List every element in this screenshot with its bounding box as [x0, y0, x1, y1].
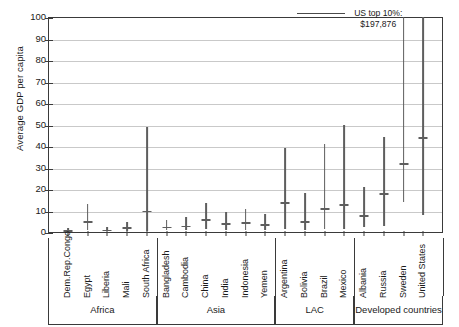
x-tick-mark [285, 231, 286, 236]
x-tick-mark [403, 231, 404, 236]
mean-marker [399, 163, 408, 165]
range-bar [87, 204, 89, 230]
x-tick-mark [265, 231, 266, 236]
category-label: South Africa [142, 249, 151, 298]
group-separator [157, 238, 158, 296]
x-tick-mark [146, 231, 147, 236]
group-band: Asia [157, 296, 276, 324]
annotation-line-1: US top 10%: [347, 8, 409, 19]
group-label: LAC [276, 304, 353, 315]
x-tick-mark [423, 231, 424, 236]
annotation-us-top-decile: US top 10%: $197,876 [347, 8, 409, 29]
range-bar [225, 212, 227, 230]
range-bar [205, 203, 207, 229]
group-band: LAC [275, 296, 354, 324]
category-label: Liberia [102, 271, 111, 298]
x-tick-mark [225, 231, 226, 236]
group-separator [443, 238, 444, 296]
group-label: Africa [49, 304, 156, 315]
category-label: Russia [379, 270, 388, 298]
data-series-layer [48, 17, 443, 232]
x-tick-mark [87, 231, 88, 236]
x-tick-mark [344, 231, 345, 236]
group-separator [275, 238, 276, 296]
x-tick-mark [206, 231, 207, 236]
mean-marker [142, 211, 151, 213]
range-bar [324, 144, 326, 229]
group-band: Africa [48, 296, 157, 324]
mean-marker [123, 227, 132, 229]
y-tick-label: 0 [20, 227, 46, 237]
category-label: Cambodia [181, 257, 190, 298]
range-bar [403, 17, 405, 202]
y-tick-label: 30 [20, 163, 46, 173]
x-tick-mark [324, 231, 325, 236]
group-label: Developed countries [355, 304, 442, 315]
range-bar [343, 125, 345, 229]
category-label: Argentina [280, 259, 289, 298]
category-label: Egypt [83, 275, 92, 298]
y-tick-label: 50 [20, 120, 46, 130]
annotation-leader-line [297, 13, 345, 14]
x-tick-mark [364, 231, 365, 236]
mean-marker [182, 226, 191, 228]
y-tick-mark [45, 233, 53, 234]
range-bar [264, 214, 266, 231]
x-tick-mark [186, 231, 187, 236]
y-tick-label: 80 [20, 55, 46, 65]
mean-marker [83, 221, 92, 223]
range-bar [284, 148, 286, 229]
mean-marker [241, 222, 250, 224]
range-bar [185, 217, 187, 230]
mean-marker [379, 193, 388, 195]
y-tick-label: 20 [20, 184, 46, 194]
category-label: Mexico [339, 269, 348, 298]
category-label: United States [418, 244, 427, 298]
category-label: Bangladesh [162, 250, 171, 298]
mean-marker [320, 208, 329, 210]
category-labels: Dem.Rep.CongoEgyptLiberiaMaliSouth Afric… [0, 238, 459, 298]
category-label: Indonesia [241, 259, 250, 298]
x-tick-mark [107, 231, 108, 236]
category-label: Sweden [399, 265, 408, 298]
category-label: Brazil [320, 275, 329, 298]
mean-marker [202, 219, 211, 221]
mean-marker [162, 227, 171, 229]
range-bar [146, 127, 148, 231]
x-tick-mark [166, 231, 167, 236]
range-bar [383, 137, 385, 225]
y-tick-label: 70 [20, 77, 46, 87]
x-tick-mark [127, 231, 128, 236]
range-bar [363, 187, 365, 227]
mean-marker [340, 204, 349, 206]
category-label: Bolivia [300, 271, 309, 298]
category-label: Dem.Rep.Congo [63, 231, 72, 298]
category-label: Yemen [260, 270, 269, 298]
x-tick-mark [383, 231, 384, 236]
range-bar [166, 220, 168, 230]
range-bar [304, 193, 306, 230]
annotation-line-2: $197,876 [347, 19, 409, 30]
group-separator [354, 238, 355, 296]
group-band-bottom-line [48, 324, 443, 325]
range-bar [245, 209, 247, 229]
group-band: Developed countries [354, 296, 443, 324]
mean-marker [221, 223, 230, 225]
mean-marker [281, 202, 290, 204]
category-label: China [201, 274, 210, 298]
range-bar [422, 17, 424, 215]
y-tick-label: 60 [20, 98, 46, 108]
mean-marker [261, 224, 270, 226]
category-label: Albania [359, 268, 368, 298]
mean-marker [360, 215, 369, 217]
gdp-per-capita-range-chart: Average GDP per capita 01020304050607080… [0, 0, 459, 327]
group-separator [48, 238, 49, 296]
group-label: Asia [158, 304, 275, 315]
y-tick-label: 90 [20, 34, 46, 44]
y-tick-label: 100 [20, 12, 46, 22]
mean-marker [300, 221, 309, 223]
mean-marker [419, 137, 428, 139]
x-tick-mark [304, 231, 305, 236]
y-tick-label: 10 [20, 206, 46, 216]
x-tick-mark [245, 231, 246, 236]
